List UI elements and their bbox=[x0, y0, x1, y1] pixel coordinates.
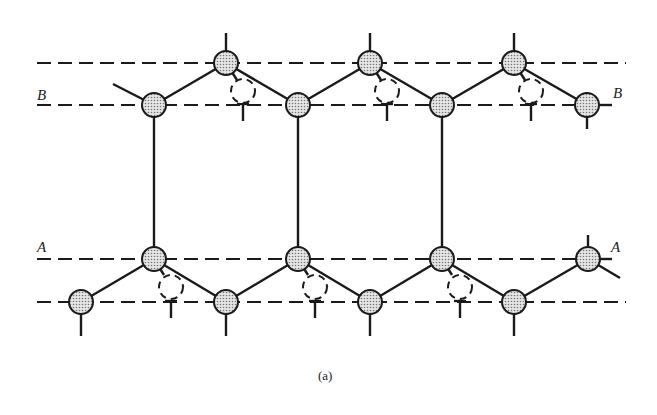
atom-bottom bbox=[214, 290, 238, 314]
dangling-atoms bbox=[159, 79, 543, 299]
dangling-atom bbox=[375, 79, 399, 103]
dangling-atom bbox=[159, 275, 183, 299]
atom-plane-B bbox=[575, 93, 599, 117]
atom-plane-B bbox=[430, 93, 454, 117]
plane-label-A-right: A bbox=[610, 239, 621, 255]
dangling-atom bbox=[231, 79, 255, 103]
plane-label-B-right: B bbox=[613, 85, 622, 101]
atom-plane-A bbox=[430, 247, 454, 271]
dangling-atom bbox=[519, 79, 543, 103]
atom-top bbox=[358, 51, 382, 75]
atom-plane-A bbox=[286, 247, 310, 271]
atom-bottom bbox=[69, 290, 93, 314]
atom-plane-A bbox=[142, 247, 166, 271]
crystal-structure-diagram: B B A A (a) bbox=[0, 0, 657, 415]
atom-bottom bbox=[358, 290, 382, 314]
dangling-atom bbox=[448, 275, 472, 299]
dangling-atom bbox=[303, 275, 327, 299]
atom-plane-A bbox=[576, 247, 600, 271]
plane-label-A-left: A bbox=[36, 239, 47, 255]
atom-plane-B bbox=[142, 93, 166, 117]
figure-caption: (a) bbox=[318, 368, 332, 383]
plane-label-B-left: B bbox=[37, 87, 46, 103]
atom-top bbox=[502, 51, 526, 75]
atom-top bbox=[214, 51, 238, 75]
atom-bottom bbox=[502, 290, 526, 314]
atom-plane-B bbox=[286, 93, 310, 117]
